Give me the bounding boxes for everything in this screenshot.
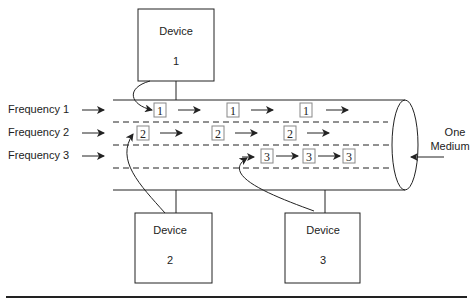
- frequency-2-label-group: Frequency 2: [8, 126, 104, 138]
- frequency-3-label: Frequency 3: [8, 149, 69, 161]
- packet-1-number: 1: [303, 104, 309, 118]
- frequency-1-label: Frequency 1: [8, 103, 69, 115]
- packet-1-number: 1: [157, 104, 163, 118]
- frequency-2-label: Frequency 2: [8, 126, 69, 138]
- packet-3-number: 3: [346, 150, 352, 164]
- device-2: Device 2: [127, 134, 212, 283]
- device-2-number: 2: [167, 254, 173, 266]
- packet-2-number: 2: [140, 127, 146, 141]
- frequency-1-label-group: Frequency 1: [8, 103, 104, 115]
- medium-label-line1: One: [445, 126, 466, 138]
- cylinder-end-ellipse: [392, 100, 418, 190]
- device-3-injection-arrow: [239, 158, 314, 211]
- frequency-1-channel: 1 1 1: [154, 103, 348, 118]
- packet-2-number: 2: [287, 127, 293, 141]
- frequency-3-label-group: Frequency 3: [8, 149, 104, 161]
- device-1-label: Device: [159, 25, 193, 37]
- medium-label-group: One Medium: [411, 126, 470, 157]
- packet-1-number: 1: [230, 104, 236, 118]
- packet-3-number: 3: [306, 150, 312, 164]
- device-2-injection-arrow: [127, 134, 165, 213]
- device-3-label: Device: [306, 224, 340, 236]
- device-2-label: Device: [153, 224, 187, 236]
- device-3: Device 3: [239, 158, 360, 283]
- packet-3-number: 3: [264, 150, 270, 164]
- device-1-number: 1: [173, 55, 179, 67]
- frequency-3-channel: 3 3 3: [242, 149, 355, 164]
- device-1-injection-arrow: [133, 81, 152, 110]
- frequency-2-channel: 2 2 2: [137, 126, 329, 141]
- packet-2-number: 2: [215, 127, 221, 141]
- device-3-number: 3: [320, 254, 326, 266]
- medium-label-line2: Medium: [430, 140, 469, 152]
- device-1: Device 1: [133, 9, 214, 110]
- fdm-diagram: Device 1 Frequency 1 Frequency 2 Frequen…: [0, 0, 475, 302]
